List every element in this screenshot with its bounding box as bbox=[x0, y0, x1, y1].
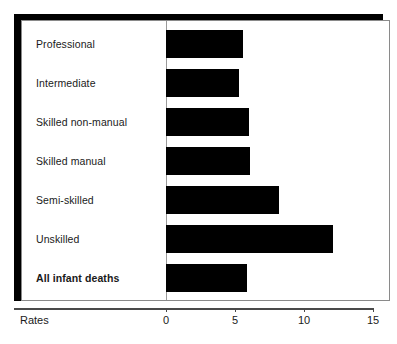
x-axis-label: Rates bbox=[20, 315, 49, 326]
bar bbox=[166, 69, 239, 97]
bar-row: Unskilled bbox=[22, 219, 389, 258]
x-axis-tick bbox=[166, 308, 167, 312]
plot-panel: ProfessionalIntermediateSkilled non-manu… bbox=[21, 20, 390, 301]
x-axis-tick-label: 0 bbox=[163, 315, 169, 326]
x-axis-tick-label: 10 bbox=[298, 315, 310, 326]
bar bbox=[166, 186, 279, 214]
bar-row: Semi-skilled bbox=[22, 180, 389, 219]
x-axis-tick bbox=[373, 308, 374, 312]
bar bbox=[166, 108, 249, 136]
bar-row-label: Semi-skilled bbox=[36, 194, 94, 205]
bar-row-label: Unskilled bbox=[36, 233, 80, 244]
bar bbox=[166, 264, 247, 292]
bar-row: Skilled manual bbox=[22, 141, 389, 180]
bar-row: Skilled non-manual bbox=[22, 102, 389, 141]
bar-row-label: Intermediate bbox=[36, 77, 96, 88]
bar bbox=[166, 30, 243, 58]
x-axis-tick bbox=[235, 308, 236, 312]
x-axis-tick bbox=[304, 308, 305, 312]
bar-row: Professional bbox=[22, 24, 389, 63]
bar bbox=[166, 225, 333, 253]
bar-rows: ProfessionalIntermediateSkilled non-manu… bbox=[22, 21, 389, 300]
bar-row: Intermediate bbox=[22, 63, 389, 102]
bar-row: All infant deaths bbox=[22, 258, 389, 297]
bar-row-label: Skilled manual bbox=[36, 155, 106, 166]
x-axis-line bbox=[14, 308, 373, 310]
bar-row-label: Skilled non-manual bbox=[36, 116, 127, 127]
bar-chart: ProfessionalIntermediateSkilled non-manu… bbox=[0, 0, 397, 344]
x-axis-tick-label: 5 bbox=[232, 315, 238, 326]
bar-row-label: Professional bbox=[36, 38, 95, 49]
bar bbox=[166, 147, 250, 175]
bar-row-label: All infant deaths bbox=[36, 272, 119, 283]
x-axis-tick-label: 15 bbox=[367, 315, 379, 326]
